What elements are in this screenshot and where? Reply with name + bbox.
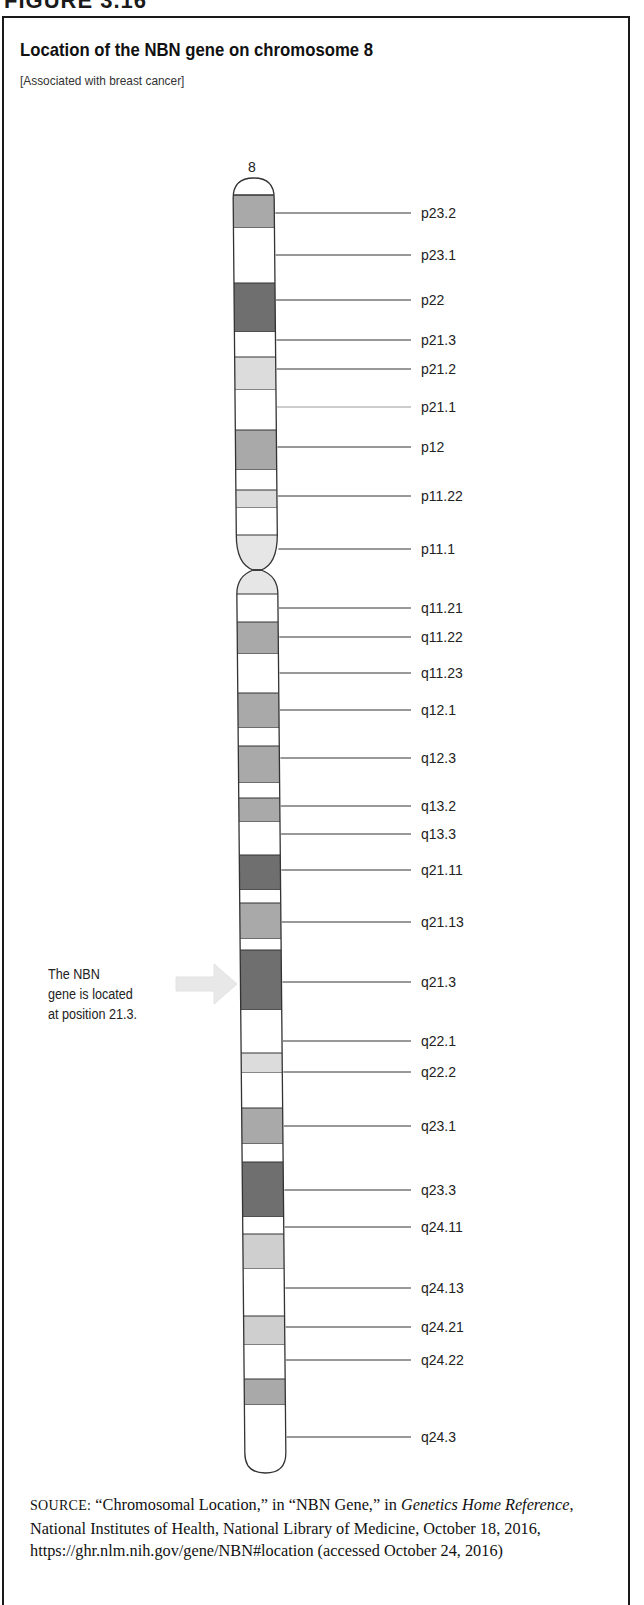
chromosome-band — [237, 822, 282, 855]
chromosome-bands — [200, 178, 320, 1473]
chromosome-band — [233, 357, 278, 390]
band-label-q12-1: q12.1 — [421, 702, 456, 718]
chromosome-band — [240, 1162, 286, 1217]
band-label-q24-3: q24.3 — [421, 1429, 456, 1445]
chromosome-band — [235, 622, 280, 654]
chromosome-band — [242, 1316, 287, 1345]
band-label-q11-22: q11.22 — [421, 629, 463, 645]
source-prefix: SOURCE: — [30, 1498, 91, 1513]
band-label-q24-11: q24.11 — [421, 1219, 463, 1235]
chromosome-band — [237, 798, 282, 822]
band-label-p21-2: p21.2 — [421, 361, 456, 377]
chromosome-band — [241, 1234, 286, 1269]
chromosome-band — [241, 1269, 286, 1316]
band-label-p23-1: p23.1 — [421, 247, 456, 263]
band-label-p21-3: p21.3 — [421, 332, 456, 348]
chromosome-band — [241, 1217, 286, 1234]
band-label-q21-11: q21.11 — [421, 862, 463, 878]
band-label-q24-22: q24.22 — [421, 1352, 464, 1368]
chromosome-band — [237, 855, 282, 890]
band-label-p21-1: p21.1 — [421, 399, 456, 415]
band-label-p11-22: p11.22 — [421, 488, 463, 504]
chromosome-band — [239, 1010, 284, 1053]
chromosome-band — [236, 746, 281, 783]
nbn-gene-annotation: The NBN gene is located at position 21.3… — [48, 964, 137, 1024]
chromosome-band — [238, 890, 283, 903]
band-label-q23-3: q23.3 — [421, 1182, 456, 1198]
band-label-q12-3: q12.3 — [421, 750, 456, 766]
chromosome-band — [231, 195, 276, 228]
chromosome-number-label: 8 — [248, 159, 256, 175]
chromosome-band — [232, 332, 277, 357]
band-label-q21-13: q21.13 — [421, 914, 464, 930]
chromosome-band — [238, 950, 284, 1010]
chromosome-band — [235, 654, 280, 693]
chromosome-ideogram: 8 p23.2p23.1p22p21.3p21.2p21.1p12p11.22p… — [0, 0, 644, 1605]
chromosome-band — [232, 283, 277, 332]
band-label-q11-21: q11.21 — [421, 600, 463, 616]
band-label-p23-2: p23.2 — [421, 205, 456, 221]
chromosome-band — [237, 783, 282, 798]
chromosome-band — [234, 470, 279, 490]
band-label-q21-3: q21.3 — [421, 974, 456, 990]
source-publication: Genetics Home Reference — [401, 1495, 569, 1514]
chromosome-band — [235, 594, 280, 622]
chromosome-band — [236, 693, 281, 728]
chromosome-band — [234, 508, 279, 535]
source-citation: SOURCE: “Chromosomal Location,” in “NBN … — [30, 1494, 620, 1563]
band-label-p22: p22 — [421, 292, 445, 308]
chromosome-band — [234, 490, 279, 508]
annotation-line: The NBN — [48, 964, 137, 984]
band-label-q13-2: q13.2 — [421, 798, 456, 814]
chromosome-band — [242, 1379, 287, 1405]
band-label-q11-23: q11.23 — [421, 665, 463, 681]
chromosome-band — [233, 430, 278, 470]
band-label-p11-1: p11.1 — [421, 541, 455, 557]
chromosome-band — [242, 1405, 287, 1440]
band-label-q24-13: q24.13 — [421, 1280, 464, 1296]
band-label-q13-3: q13.3 — [421, 826, 456, 842]
chromosome-band — [233, 390, 278, 430]
band-label-q23-1: q23.1 — [421, 1118, 456, 1134]
band-labels: p23.2p23.1p22p21.3p21.2p21.1p12p11.22p11… — [275, 205, 464, 1445]
annotation-line: at position 21.3. — [48, 1004, 137, 1024]
band-label-p12: p12 — [421, 439, 445, 455]
chromosome-band — [240, 1108, 285, 1144]
chromosome-band — [231, 228, 277, 283]
arrow-icon — [176, 964, 237, 1004]
chromosome-band — [239, 1053, 284, 1073]
chromosome-band — [236, 728, 281, 746]
chromosome-band — [240, 1144, 285, 1162]
annotation-line: gene is located — [48, 984, 137, 1004]
band-label-q22-1: q22.1 — [421, 1033, 456, 1049]
source-text: “Chromosomal Location,” in “NBN Gene,” i… — [95, 1495, 401, 1514]
chromosome-band — [238, 903, 283, 939]
chromosome-band — [238, 939, 283, 950]
chromosome-band — [242, 1345, 287, 1379]
band-label-q24-21: q24.21 — [421, 1319, 464, 1335]
band-label-q22-2: q22.2 — [421, 1064, 456, 1080]
chromosome-band — [239, 1073, 284, 1108]
